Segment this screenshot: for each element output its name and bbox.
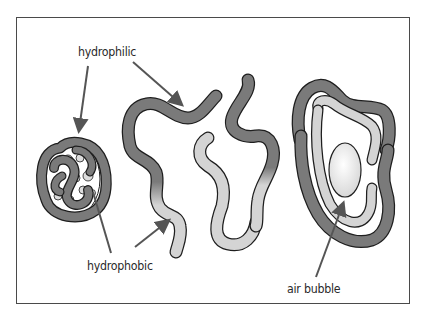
- unfolded-strand-left: [128, 96, 216, 252]
- air-bubble: [329, 143, 361, 197]
- protein-folding-diagram: [0, 0, 430, 323]
- arrow-hydrophilic-to-chain: [133, 62, 181, 104]
- bubble-wrapped-protein: [298, 85, 389, 241]
- arrow-hydrophobic-to-chain: [135, 221, 168, 247]
- arrow-hydrophilic-to-folded: [79, 66, 88, 130]
- label-air-bubble: air bubble: [287, 281, 340, 296]
- unfolded-chains: [128, 80, 273, 252]
- label-hydrophobic: hydrophobic: [87, 258, 153, 273]
- label-hydrophilic: hydrophilic: [78, 44, 136, 59]
